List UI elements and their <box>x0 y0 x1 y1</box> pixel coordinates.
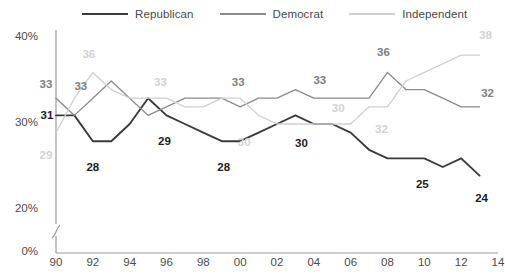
data-label-democrat: 33 <box>232 76 245 88</box>
data-label-democrat: 33 <box>74 80 87 92</box>
data-label-democrat: 32 <box>481 87 494 99</box>
series-line-independent <box>56 55 480 132</box>
plot-area <box>0 0 505 280</box>
data-label-democrat: 36 <box>377 46 390 58</box>
data-label-independent: 36 <box>82 48 95 60</box>
x-axis-tick-label: 94 <box>123 256 136 268</box>
data-label-republican: 30 <box>295 137 308 149</box>
x-axis-tick-label: 98 <box>197 256 210 268</box>
data-label-independent: 32 <box>375 123 388 135</box>
y-axis-tick-label: 30% <box>15 116 38 128</box>
y-axis-tick-label: 0% <box>21 245 38 257</box>
x-axis-tick-label: 00 <box>234 256 247 268</box>
data-label-independent: 38 <box>479 29 492 41</box>
chart-container: Republican Democrat Independent 40%30%20… <box>0 0 505 280</box>
data-label-republican: 31 <box>41 109 54 121</box>
x-axis-tick-label: 90 <box>50 256 63 268</box>
data-label-republican: 29 <box>158 135 171 147</box>
x-axis-tick-label: 02 <box>271 256 284 268</box>
x-axis-tick-label: 04 <box>307 256 320 268</box>
x-axis-tick-label: 96 <box>160 256 173 268</box>
data-label-republican: 25 <box>416 178 429 190</box>
data-label-democrat: 33 <box>40 78 53 90</box>
x-axis-tick-label: 10 <box>418 256 431 268</box>
x-axis-tick-label: 12 <box>455 256 468 268</box>
data-label-democrat: 33 <box>313 74 326 86</box>
data-label-independent: 30 <box>238 136 251 148</box>
x-axis-tick-label: 14 <box>492 256 505 268</box>
data-label-republican: 28 <box>86 161 99 173</box>
y-axis-tick-label: 40% <box>15 30 38 42</box>
data-label-republican: 24 <box>475 192 488 204</box>
series-line-republican <box>56 98 480 175</box>
x-axis-tick-label: 08 <box>381 256 394 268</box>
x-axis-tick-label: 06 <box>344 256 357 268</box>
data-label-independent: 33 <box>154 76 167 88</box>
y-axis-tick-label: 20% <box>15 202 38 214</box>
data-label-republican: 28 <box>217 161 230 173</box>
data-label-independent: 29 <box>40 149 53 161</box>
data-label-independent: 30 <box>332 102 345 114</box>
x-axis-tick-label: 92 <box>86 256 99 268</box>
